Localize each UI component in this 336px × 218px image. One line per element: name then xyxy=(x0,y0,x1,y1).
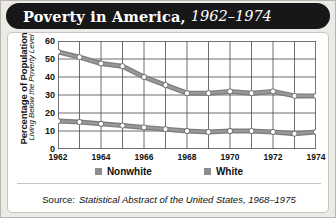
legend-swatch-icon-nonwhite xyxy=(95,168,102,175)
plot-region: 0102030405060 19621964196619681970197219… xyxy=(58,41,316,149)
legend-label-nonwhite: Nonwhite xyxy=(107,166,152,177)
source-divider xyxy=(17,183,321,184)
y-tick-60: 60 xyxy=(45,36,55,46)
plot-svg xyxy=(58,41,316,149)
title-main: Poverty in America, xyxy=(23,8,186,25)
y-tick-30: 30 xyxy=(45,90,55,100)
x-tick-1968: 1968 xyxy=(178,152,197,162)
x-tick-1972: 1972 xyxy=(264,152,283,162)
y-tick-40: 40 xyxy=(45,72,55,82)
title-years: 1962–1974 xyxy=(191,8,272,24)
legend-item-nonwhite: Nonwhite xyxy=(95,166,152,177)
x-tick-1974: 1974 xyxy=(307,152,326,162)
y-tick-50: 50 xyxy=(45,54,55,64)
legend-item-white: White xyxy=(204,166,243,177)
source-note: Source: Statistical Abstract of the Unit… xyxy=(8,186,330,212)
chart-legend: Nonwhite White xyxy=(8,164,330,179)
chart-area: Percentage of Population Living Below th… xyxy=(8,33,330,185)
source-citation: Statistical Abstract of the United State… xyxy=(79,194,296,205)
title-banner: Poverty in America, 1962–1974 xyxy=(6,3,330,29)
source-prefix: Source: xyxy=(42,194,75,205)
poverty-chart-figure: Poverty in America, 1962–1974 Percentage… xyxy=(0,0,336,218)
x-tick-1964: 1964 xyxy=(92,152,111,162)
y-tick-10: 10 xyxy=(45,126,55,136)
y-tick-20: 20 xyxy=(45,108,55,118)
legend-label-white: White xyxy=(216,166,243,177)
legend-swatch-icon-white xyxy=(204,168,211,175)
x-tick-1966: 1966 xyxy=(135,152,154,162)
x-tick-1970: 1970 xyxy=(221,152,240,162)
chart-card: Percentage of Population Living Below th… xyxy=(7,32,329,213)
y-axis-title-secondary: Living Below the Poverty Level xyxy=(27,29,36,147)
x-tick-1962: 1962 xyxy=(49,152,68,162)
